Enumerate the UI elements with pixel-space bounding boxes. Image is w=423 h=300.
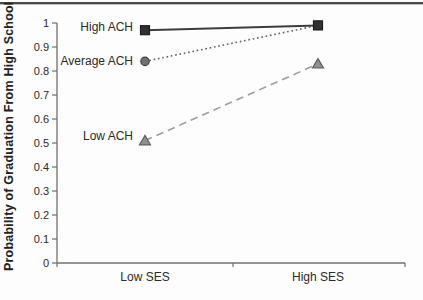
marker-triangle (140, 135, 151, 144)
x-category-label: High SES (292, 270, 344, 284)
x-category-label: Low SES (120, 270, 169, 284)
y-tick-label: 0.7 (34, 89, 49, 101)
y-tick-label: 0 (43, 257, 49, 269)
y-tick-label: 0.6 (34, 113, 49, 125)
graduation-probability-line-chart: 10.90.80.70.60.50.40.30.20.10Low SESHigh… (0, 0, 423, 300)
y-tick-label: 0.2 (34, 209, 49, 221)
y-tick-label: 0.4 (34, 161, 49, 173)
marker-circle (141, 57, 149, 65)
series-label: Low ACH (83, 129, 133, 143)
series-line-dotted (145, 25, 318, 61)
series-label: Average ACH (61, 54, 134, 68)
series-line-solid (145, 25, 318, 30)
series-label: High ACH (80, 20, 133, 34)
y-tick-label: 0.1 (34, 233, 49, 245)
marker-square (141, 26, 150, 35)
y-tick-label: 1 (43, 17, 49, 29)
marker-triangle (313, 59, 324, 68)
y-tick-label: 0.8 (34, 65, 49, 77)
figure-container: Probability of Graduation From High Scho… (0, 0, 423, 300)
marker-square (314, 21, 323, 30)
y-tick-label: 0.9 (34, 41, 49, 53)
y-tick-label: 0.3 (34, 185, 49, 197)
y-tick-label: 0.5 (34, 137, 49, 149)
series-line-dashed (145, 64, 318, 141)
